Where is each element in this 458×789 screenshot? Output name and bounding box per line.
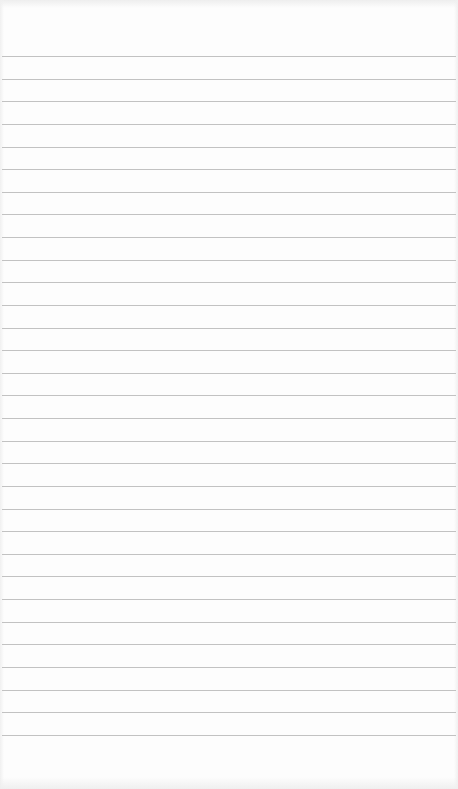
ruled-line	[2, 509, 456, 510]
ruled-line	[2, 305, 456, 306]
ruled-line	[2, 554, 456, 555]
ruled-line	[2, 56, 456, 57]
ruled-line	[2, 418, 456, 419]
ruled-line	[2, 690, 456, 691]
paper-top-edge	[0, 0, 458, 8]
ruled-line	[2, 599, 456, 600]
ruled-line	[2, 79, 456, 80]
ruled-line	[2, 147, 456, 148]
ruled-line	[2, 237, 456, 238]
ruled-line	[2, 735, 456, 736]
ruled-line	[2, 463, 456, 464]
ruled-line	[2, 373, 456, 374]
ruled-line	[2, 214, 456, 215]
ruled-line	[2, 124, 456, 125]
ruled-line	[2, 350, 456, 351]
ruled-line	[2, 712, 456, 713]
ruled-line	[2, 395, 456, 396]
ruled-line	[2, 622, 456, 623]
lined-paper-sheet	[0, 0, 458, 789]
ruled-line	[2, 260, 456, 261]
ruled-line	[2, 486, 456, 487]
ruled-line	[2, 328, 456, 329]
ruled-line	[2, 169, 456, 170]
ruled-line	[2, 282, 456, 283]
ruled-line	[2, 441, 456, 442]
ruled-line	[2, 531, 456, 532]
ruled-line	[2, 192, 456, 193]
ruled-line	[2, 576, 456, 577]
ruled-line	[2, 101, 456, 102]
paper-bottom-edge	[0, 777, 458, 789]
ruled-line	[2, 667, 456, 668]
ruled-line	[2, 644, 456, 645]
